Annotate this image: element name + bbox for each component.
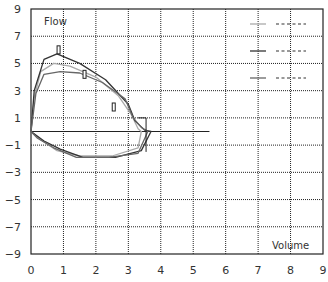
bracket-icon [138, 118, 146, 152]
axis-ticks: 97531−1−3−5−7−90123456789 [5, 3, 327, 277]
flow-volume-chart: 97531−1−3−5−7−90123456789 Flow Volume [0, 0, 328, 282]
y-tick-label: 7 [14, 30, 21, 43]
y-tick-label: −5 [5, 194, 21, 207]
y-axis-label: Flow [44, 16, 67, 27]
y-tick-label: 3 [14, 85, 21, 98]
x-tick-label: 9 [320, 264, 327, 277]
x-tick-label: 5 [190, 264, 197, 277]
series-line [31, 54, 151, 157]
y-tick-label: −7 [5, 221, 21, 234]
x-tick-label: 4 [157, 264, 164, 277]
series-group [31, 54, 151, 157]
y-tick-label: 1 [14, 112, 21, 125]
x-tick-label: 1 [60, 264, 67, 277]
x-tick-label: 2 [92, 264, 99, 277]
x-tick-label: 7 [255, 264, 262, 277]
y-tick-label: −1 [5, 139, 21, 152]
y-tick-label: −9 [5, 248, 21, 261]
x-axis-label: Volume [272, 240, 309, 251]
y-tick-label: 5 [14, 57, 21, 70]
marker-icon [57, 46, 60, 54]
marker-icon [83, 70, 86, 78]
x-tick-label: 0 [28, 264, 35, 277]
annotations [57, 46, 146, 152]
marker-icon [112, 103, 115, 111]
grid [31, 9, 323, 254]
y-tick-label: −3 [5, 166, 21, 179]
series-line [31, 72, 148, 158]
y-tick-label: 9 [14, 3, 21, 16]
x-tick-label: 8 [287, 264, 294, 277]
x-tick-label: 3 [125, 264, 132, 277]
x-tick-label: 6 [222, 264, 229, 277]
